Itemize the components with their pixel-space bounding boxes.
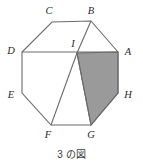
vertex-label-I: I bbox=[71, 39, 75, 50]
vertex-label-A: A bbox=[125, 47, 131, 58]
vertex-label-C: C bbox=[45, 6, 52, 17]
vertex-label-F: F bbox=[45, 130, 51, 141]
vertex-label-B: B bbox=[88, 6, 94, 17]
segment-IF bbox=[51, 53, 77, 125]
vertex-label-H: H bbox=[124, 90, 132, 101]
shaded-quadrilateral-IAHG bbox=[77, 52, 118, 125]
vertex-label-D: D bbox=[7, 46, 15, 57]
vertex-label-E: E bbox=[8, 90, 14, 101]
figure-container: A B C D E F G H I 3 の図 bbox=[0, 0, 143, 166]
segment-BI bbox=[77, 21, 91, 53]
vertex-label-G: G bbox=[87, 130, 95, 141]
figure-caption: 3 の図 bbox=[0, 146, 143, 161]
geometry-figure bbox=[0, 0, 143, 166]
